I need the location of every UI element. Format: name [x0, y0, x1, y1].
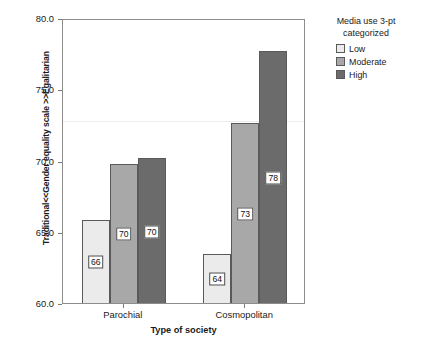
legend-swatch-icon	[336, 57, 345, 66]
y-tick-label: 80.0	[20, 13, 54, 24]
x-axis-title: Type of society	[62, 325, 305, 335]
y-tick-label: 75.0	[20, 84, 54, 95]
legend-item-label: High	[349, 70, 367, 80]
y-tick-label: 65.0	[20, 227, 54, 238]
y-tick-mark	[58, 304, 62, 305]
legend-item-label: Moderate	[349, 57, 387, 67]
bar-value-label: 78	[265, 172, 281, 185]
y-tick-label: 60.0	[20, 298, 54, 309]
x-category-label: Parochial	[103, 309, 142, 320]
bar-chart: Traditional<<Gender equality scale >>Ega…	[0, 0, 422, 348]
legend-title-line-1: Media use 3-pt	[318, 16, 414, 28]
legend-item-label: Low	[349, 44, 365, 54]
legend-item-high[interactable]: High	[336, 68, 418, 81]
legend-swatch-icon	[336, 44, 345, 53]
legend-item-low[interactable]: Low	[336, 42, 418, 55]
legend-items: LowModerateHigh	[318, 42, 418, 81]
x-tick-mark	[244, 304, 245, 308]
legend-item-moderate[interactable]: Moderate	[336, 55, 418, 68]
bar-value-label: 73	[237, 207, 253, 220]
y-axis-title: Traditional<<Gender equality scale >>Ega…	[41, 3, 51, 293]
plot-area: 667070647378	[62, 19, 305, 304]
bar-value-label: 70	[116, 228, 132, 241]
legend-title-line-2: categorized	[318, 28, 414, 40]
legend: Media use 3-pt categorized LowModerateHi…	[318, 16, 418, 81]
legend-swatch-icon	[336, 70, 345, 79]
bar-value-label: 70	[144, 225, 160, 238]
x-category-label: Cosmopolitan	[216, 309, 273, 320]
y-tick-label: 70.0	[20, 156, 54, 167]
legend-title: Media use 3-pt categorized	[318, 16, 414, 39]
x-tick-mark	[123, 304, 124, 308]
bar-value-label: 66	[88, 256, 104, 269]
bar-value-label: 64	[209, 273, 225, 286]
